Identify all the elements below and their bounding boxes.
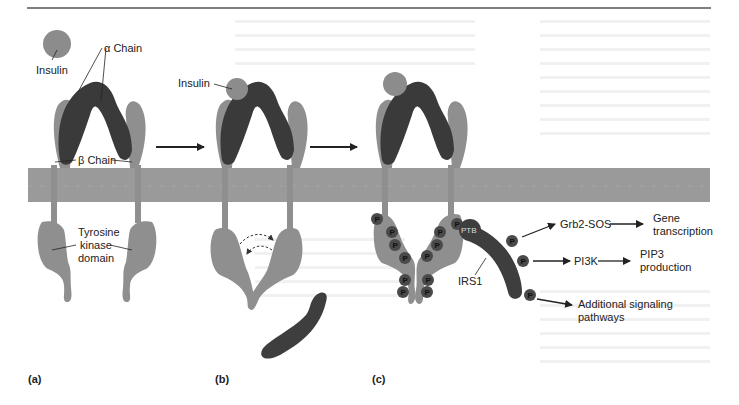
panel-label-a: (a) xyxy=(28,373,42,385)
panel-c: P P P P P P P P P P P P PTB P P P IRS1 (… xyxy=(371,72,536,385)
panel-label-b: (b) xyxy=(215,373,229,385)
phosphate-icon: P xyxy=(517,255,529,267)
tyrosine-kinase-label-1: Tyrosine xyxy=(78,226,120,238)
phosphate-icon: P xyxy=(371,213,383,225)
bound-insulin-b xyxy=(226,78,248,100)
svg-text:P: P xyxy=(521,257,527,266)
pathways-label: pathways xyxy=(578,311,625,323)
gene-label: Gene xyxy=(653,212,680,224)
phosphate-icon: P xyxy=(389,239,401,251)
phosphate-icon: P xyxy=(434,226,446,238)
phosphate-icon: P xyxy=(421,250,433,262)
kinase-domain-b-left xyxy=(211,228,255,309)
cell-membrane xyxy=(28,168,710,202)
irs1-label: IRS1 xyxy=(458,275,482,287)
svg-text:P: P xyxy=(375,215,381,224)
transcription-label: transcription xyxy=(653,225,713,237)
svg-text:P: P xyxy=(425,288,431,297)
irs1-free xyxy=(261,293,327,359)
pip3-label: PIP3 xyxy=(640,248,664,260)
svg-text:P: P xyxy=(403,276,409,285)
svg-text:P: P xyxy=(435,241,441,250)
tyrosine-kinase-label-3: domain xyxy=(78,252,114,264)
phosphate-icon: P xyxy=(399,274,411,286)
phosphate-icon: P xyxy=(431,239,443,251)
svg-text:P: P xyxy=(438,228,444,237)
svg-text:P: P xyxy=(528,291,534,300)
tyrosine-kinase-domain-right xyxy=(123,221,157,302)
tyrosine-kinase-label-2: kinase xyxy=(80,239,112,251)
alpha-chain-label: α Chain xyxy=(104,42,142,54)
phosphate-icon: P xyxy=(524,289,536,301)
svg-text:P: P xyxy=(425,252,431,261)
svg-text:P: P xyxy=(403,254,409,263)
phosphate-icon: P xyxy=(422,274,434,286)
bound-insulin-c xyxy=(383,72,407,96)
svg-text:P: P xyxy=(393,241,399,250)
svg-text:P: P xyxy=(401,288,407,297)
insulin-bound-label: Insulin xyxy=(178,77,210,89)
phosphate-icon: P xyxy=(397,286,409,298)
phosphate-icon: P xyxy=(421,286,433,298)
additional-signaling-label: Additional signaling xyxy=(578,298,673,310)
grb2-sos-label: Grb2-SOS xyxy=(560,218,611,230)
phosphate-icon: P xyxy=(386,226,398,238)
svg-text:P: P xyxy=(426,276,432,285)
production-label: production xyxy=(640,261,691,273)
panel-a: Insulin α Chain β Chain Tyrosine kinase … xyxy=(28,30,156,385)
phosphate-icon: P xyxy=(506,235,518,247)
beta-chain-label: β Chain xyxy=(78,154,116,166)
panel-b: Insulin (b) xyxy=(178,77,327,385)
pi3k-label: PI3K xyxy=(574,255,599,267)
alpha-chain xyxy=(59,82,132,165)
tyrosine-kinase-domain-left xyxy=(38,221,72,302)
svg-text:P: P xyxy=(390,228,396,237)
svg-text:P: P xyxy=(510,237,516,246)
insulin-molecule xyxy=(43,30,71,58)
arrow-to-grb2 xyxy=(522,224,555,237)
panel-label-c: (c) xyxy=(372,373,386,385)
ptb-label: PTB xyxy=(461,226,477,235)
insulin-receptor-diagram: Insulin α Chain β Chain Tyrosine kinase … xyxy=(0,0,739,405)
insulin-label: Insulin xyxy=(36,64,68,76)
phosphate-icon: P xyxy=(399,252,411,264)
